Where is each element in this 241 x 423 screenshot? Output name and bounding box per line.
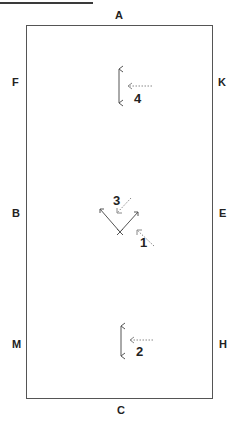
arrow-2-icon — [130, 337, 153, 343]
step-3-label: 3 — [113, 194, 120, 207]
step-4-label: 4 — [134, 92, 141, 105]
bracket-2-icon — [121, 323, 125, 359]
step-1-label: 1 — [140, 236, 147, 249]
bracket-4-icon — [119, 66, 123, 106]
step-2-label: 2 — [136, 345, 143, 358]
arrow-4-icon — [128, 83, 152, 89]
movement-paths — [0, 0, 241, 423]
